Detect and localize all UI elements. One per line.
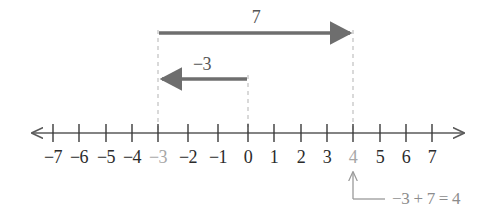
tick-label-5: 5 <box>376 148 385 166</box>
guide-lines <box>158 30 353 133</box>
number-line-canvas <box>0 0 496 220</box>
tick-label-7: 7 <box>428 148 437 166</box>
tick-label-minus-1: −1 <box>209 148 227 166</box>
result-equation: −3 + 7 = 4 <box>392 190 460 207</box>
second-jump-label: 7 <box>252 8 261 26</box>
first-jump-label: −3 <box>193 55 211 73</box>
tick-label-2: 2 <box>297 148 306 166</box>
tick-label-3: 3 <box>323 148 332 166</box>
result-callout-arrow <box>353 172 385 199</box>
tick-label-minus-3: −3 <box>149 148 167 166</box>
tick-label-zero: 0 <box>244 148 253 166</box>
tick-label-4: 4 <box>349 148 358 166</box>
tick-label-minus-4: −4 <box>123 148 141 166</box>
tick-label-minus-2: −2 <box>179 148 197 166</box>
tick-label-minus-7: −7 <box>44 148 62 166</box>
tick-label-minus-6: −6 <box>70 148 88 166</box>
number-line-figure: 7 −3 −7 −6 −5 −4 −3 −2 −1 0 1 2 3 4 5 6 … <box>0 0 496 220</box>
tick-label-6: 6 <box>402 148 411 166</box>
tick-label-1: 1 <box>270 148 279 166</box>
tick-label-minus-5: −5 <box>97 148 115 166</box>
